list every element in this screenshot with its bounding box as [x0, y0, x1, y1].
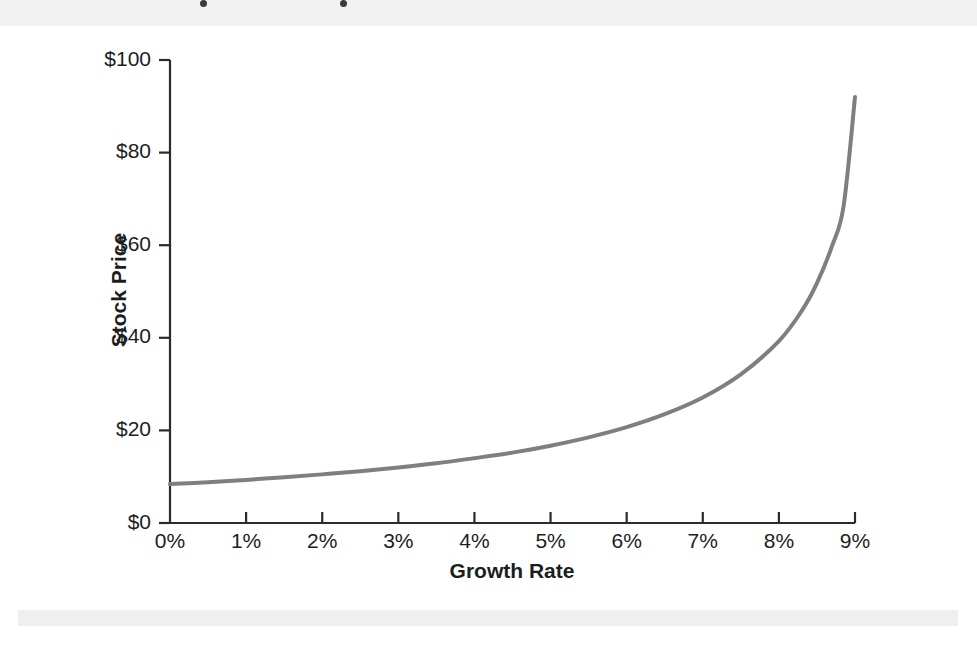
chart-canvas: Stock Price Growth Rate $0$20$40$60$80$1… — [0, 0, 977, 656]
stock-price-growth-rate-chart: Stock Price Growth Rate $0$20$40$60$80$1… — [0, 0, 977, 656]
y-tick-label: $100 — [104, 47, 151, 70]
x-tick-label: 5% — [535, 529, 565, 552]
y-tick-label: $20 — [116, 417, 151, 440]
x-tick-label: 6% — [611, 529, 641, 552]
y-axis-ticks — [159, 60, 170, 523]
x-axis-title: Growth Rate — [450, 559, 575, 582]
y-tick-label: $40 — [116, 324, 151, 347]
x-tick-label: 9% — [840, 529, 870, 552]
x-tick-label: 0% — [155, 529, 185, 552]
x-tick-label: 3% — [383, 529, 413, 552]
x-tick-label: 1% — [231, 529, 261, 552]
stock-price-curve — [170, 97, 855, 484]
y-tick-label: $0 — [128, 510, 151, 533]
x-tick-label: 8% — [764, 529, 794, 552]
y-tick-label: $60 — [116, 232, 151, 255]
x-tick-label: 7% — [688, 529, 718, 552]
x-axis-tick-labels: 0%1%2%3%4%5%6%7%8%9% — [155, 529, 870, 552]
x-tick-label: 4% — [459, 529, 489, 552]
y-tick-label: $80 — [116, 139, 151, 162]
x-axis-ticks — [246, 512, 855, 523]
x-tick-label: 2% — [307, 529, 337, 552]
